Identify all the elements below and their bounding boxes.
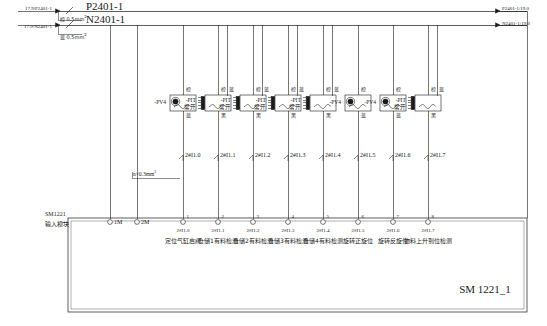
terminal-address-3: 2#I1.2: [247, 228, 260, 233]
channel-description-6: 旋转正旋位: [343, 238, 373, 244]
channel-address-2: 2#I1.1: [220, 152, 236, 158]
device-note-4: 常开: [254, 105, 266, 111]
wire-color-second-3: 蓝: [264, 87, 269, 92]
negative-source-label: 17.9/N2401-1: [24, 24, 52, 29]
device-note-5: 常开: [289, 105, 301, 111]
module-title: SM 1221_1: [459, 284, 511, 295]
channel-address-1: 2#I1.0: [185, 152, 201, 158]
negative-rail-label: N2401-1: [86, 14, 125, 25]
terminal-address-1: 2#I1.0: [177, 228, 190, 233]
wire-color-bottom-3: 黑: [256, 113, 261, 118]
wire-color-top-5: 棕: [326, 87, 331, 92]
channel-description-1: 定位气缸启阀: [165, 238, 201, 244]
device-note-8: 常开: [394, 105, 406, 111]
positive-wire-spec: 棕 0.5mm2: [60, 15, 87, 22]
schematic-lines: [0, 0, 547, 326]
channel-address-4: 2#I1.3: [290, 152, 306, 158]
device-tag-8: -PIT: [396, 98, 406, 104]
terminal-address-4: 2#I1.3: [282, 228, 295, 233]
wire-color-second-5: 蓝: [334, 87, 339, 92]
wire-color-top-8: 棕: [431, 87, 436, 92]
terminal-number-7: 7: [397, 214, 400, 219]
wire-color-top-1: 棕: [186, 87, 191, 92]
device-tag-1: -PV4: [154, 100, 166, 106]
terminal-address-8: 2#I1.7: [422, 228, 435, 233]
wire-color-top-6: 棕: [361, 87, 366, 92]
terminal-number-1: 1: [187, 214, 190, 219]
device-tag-2: -PIT: [186, 98, 196, 104]
channel-description-2: 仓储1有料检测: [198, 238, 238, 244]
common-terminal-label-2: 2M: [141, 219, 149, 225]
terminal-address-2: 2#I1.1: [212, 228, 225, 233]
device-tag-5: -PIT: [291, 98, 301, 104]
common-terminal-label-1: 1M: [114, 219, 122, 225]
terminal-number-2: 2: [222, 214, 225, 219]
channel-description-5: 仓储4有料检测: [303, 238, 343, 244]
channel-description-3: 仓储2有料检测: [233, 238, 273, 244]
wire-color-top-2: 棕: [221, 87, 226, 92]
terminal-address-6: 2#I1.5: [352, 228, 365, 233]
terminal-number-6: 6: [362, 214, 365, 219]
device-tag-7: -PV4: [364, 100, 376, 106]
channel-description-8: 物料上升到位检测: [404, 238, 452, 244]
terminal-number-5: 5: [327, 214, 330, 219]
bundle-wire-spec: n×0.3mm2: [133, 170, 156, 177]
wire-color-bottom-5: 黑: [326, 113, 331, 118]
terminal-address-7: 2#I1.6: [387, 228, 400, 233]
channel-address-8: 2#I1.7: [430, 152, 446, 158]
wiring-diagram-sheet: 17.9/P2401-1 17.9/N2401-1 棕 0.5mm2 蓝 0.5…: [0, 0, 547, 326]
wire-color-bottom-6: 蓝: [361, 113, 366, 118]
channel-address-3: 2#I1.2: [255, 152, 271, 158]
channel-address-5: 2#I1.4: [325, 152, 341, 158]
module-name-label: SM1221: [45, 211, 66, 217]
wire-color-bottom-7: 蓝: [396, 113, 401, 118]
terminal-number-8: 8: [432, 214, 435, 219]
terminal-address-5: 2#I1.4: [317, 228, 330, 233]
device-tag-6: -PV4: [329, 100, 341, 106]
module-subtitle-label: 输入模块: [45, 221, 69, 227]
wire-color-bottom-8: 黑: [431, 113, 436, 118]
wire-color-bottom-1: 蓝: [186, 113, 191, 118]
positive-source-label: 17.9/P2401-1: [25, 6, 52, 11]
device-tag-3: -PIT: [221, 98, 231, 104]
terminal-number-4: 4: [292, 214, 295, 219]
positive-destination-label: P2401-1/19.0: [502, 6, 529, 11]
wire-color-second-8: 蓝: [439, 87, 444, 92]
negative-wire-spec: 蓝 0.5mm2: [60, 33, 87, 40]
wire-color-top-4: 棕: [291, 87, 296, 92]
wire-color-second-4: 蓝: [299, 87, 304, 92]
device-tag-4: -PIT: [256, 98, 266, 104]
device-note-3: 常开: [219, 105, 231, 111]
wire-color-bottom-4: 黑: [291, 113, 296, 118]
wire-color-bottom-2: 黑: [221, 113, 226, 118]
positive-rail-label: P2401-1: [86, 1, 123, 12]
wire-color-top-3: 棕: [256, 87, 261, 92]
wire-color-second-2: 蓝: [229, 87, 234, 92]
channel-address-7: 2#I1.6: [395, 152, 411, 158]
wire-color-top-7: 棕: [396, 87, 401, 92]
device-note-2: 常开: [184, 105, 196, 111]
channel-address-6: 2#I1.5: [360, 152, 376, 158]
terminal-number-3: 3: [257, 214, 260, 219]
negative-destination-label: N2401-1/19.0: [502, 21, 530, 26]
channel-description-4: 仓储3有料检测: [268, 238, 308, 244]
